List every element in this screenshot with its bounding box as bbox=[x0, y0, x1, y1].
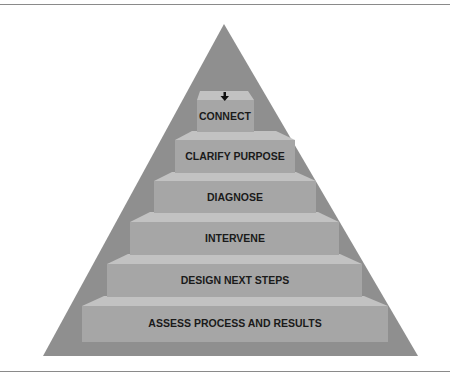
step-design-next-steps: DESIGN NEXT STEPS bbox=[107, 254, 362, 297]
step-label: DIAGNOSE bbox=[207, 191, 263, 203]
step-label: CLARIFY PURPOSE bbox=[185, 150, 285, 162]
step-diagnose: DIAGNOSE bbox=[154, 172, 316, 213]
pyramid-diagram: ASSESS PROCESS AND RESULTS DESIGN NEXT S… bbox=[0, 0, 450, 380]
step-label: INTERVENE bbox=[205, 232, 265, 244]
step-label: DESIGN NEXT STEPS bbox=[181, 274, 290, 286]
step-label: ASSESS PROCESS AND RESULTS bbox=[148, 317, 321, 329]
step-clarify-purpose: CLARIFY PURPOSE bbox=[175, 131, 295, 173]
step-intervene: INTERVENE bbox=[130, 212, 339, 255]
step-label: CONNECT bbox=[199, 110, 252, 122]
step-assess: ASSESS PROCESS AND RESULTS bbox=[82, 296, 388, 342]
